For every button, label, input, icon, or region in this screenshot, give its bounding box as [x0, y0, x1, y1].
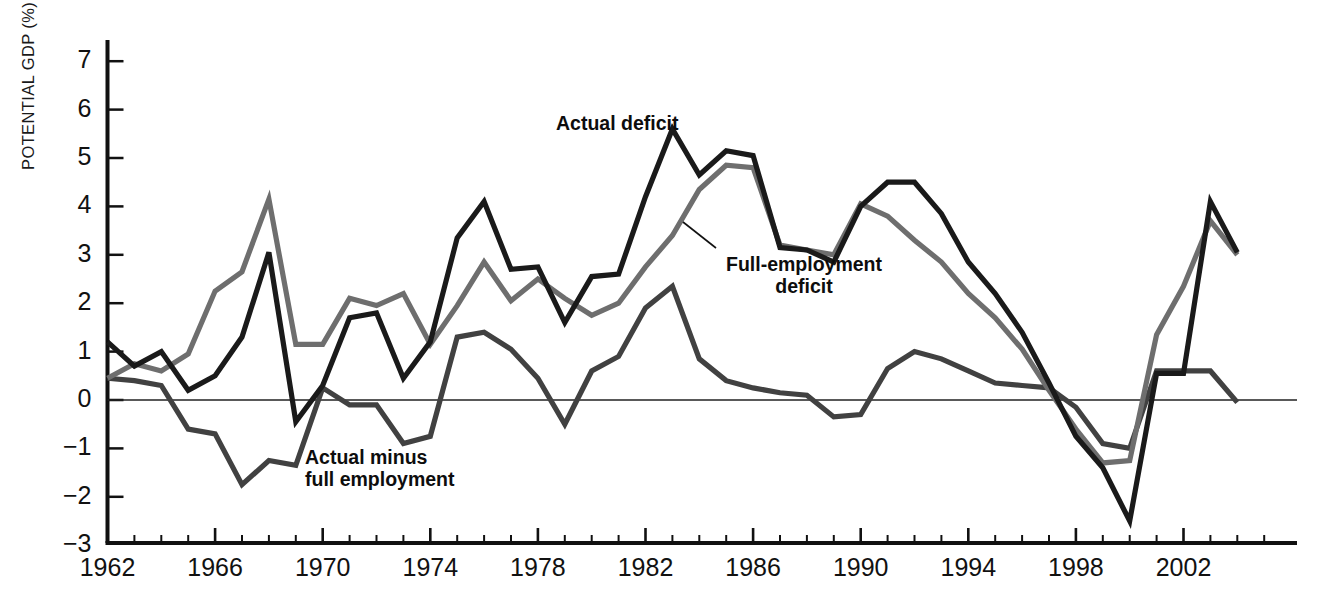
- chart-figure: POTENTIAL GDP (%) 76543210−1−2−3 1962196…: [0, 0, 1318, 615]
- actual-minus-full-employment-label: Actual minusfull employment: [305, 447, 455, 491]
- x-axis-tick-label: 1966: [155, 553, 275, 582]
- actual-deficit-label-text: Actual deficit: [556, 112, 678, 134]
- x-axis-tick-label: 1994: [908, 553, 1028, 582]
- x-axis-tick-label: 1990: [801, 553, 921, 582]
- x-axis-tick-label: 1982: [586, 553, 706, 582]
- y-axis-tick-label: 7: [50, 45, 92, 74]
- actual-minus-full-employment-label-line2: full employment: [305, 469, 455, 491]
- y-axis-tick-label: −1: [50, 432, 92, 461]
- x-axis-tick-label: 1998: [1016, 553, 1136, 582]
- full-employment-deficit-label-line2: deficit: [726, 276, 882, 298]
- full-employment-deficit-label-line1: Full-employment: [726, 254, 882, 276]
- actual-deficit-label: Actual deficit: [556, 113, 678, 135]
- actual-minus-full-employment-label-line1: Actual minus: [305, 447, 455, 469]
- x-axis-tick-label: 1970: [263, 553, 383, 582]
- annotation-leader-lines: [683, 222, 716, 248]
- y-axis-tick-label: 2: [50, 287, 92, 316]
- y-axis-tick-label: 3: [50, 239, 92, 268]
- x-axis-tick-label: 1978: [478, 553, 598, 582]
- y-axis-tick-label: 1: [50, 336, 92, 365]
- full-employment-deficit-label: Full-employmentdeficit: [726, 254, 882, 298]
- y-axis-tick-label: −2: [50, 481, 92, 510]
- y-axis-tick-label: 0: [50, 384, 92, 413]
- x-axis-tick-label: 1962: [48, 553, 168, 582]
- y-axis-tick-label: 6: [50, 94, 92, 123]
- data-series-group: [108, 129, 1238, 521]
- x-axis-tick-label: 1986: [693, 553, 813, 582]
- y-axis-tick-label: 5: [50, 142, 92, 171]
- y-axis-tick-label: 4: [50, 190, 92, 219]
- chart-plot-area: [0, 0, 1318, 615]
- annotation-leader-line: [683, 222, 716, 248]
- x-axis-tick-label: 1974: [370, 553, 490, 582]
- x-axis-tick-label: 2002: [1124, 553, 1244, 582]
